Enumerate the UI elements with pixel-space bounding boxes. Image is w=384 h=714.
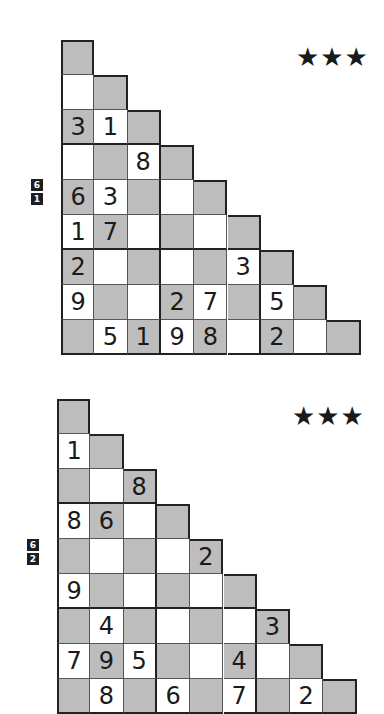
grid-cell[interactable] <box>190 609 223 644</box>
grid-cell[interactable]: 4 <box>224 644 257 679</box>
grid-cell[interactable] <box>157 574 190 609</box>
badge-bottom: 2 <box>27 553 39 565</box>
grid-cell[interactable]: 2 <box>290 679 323 714</box>
grid-cell[interactable]: 2 <box>190 539 223 574</box>
grid-cell[interactable] <box>157 644 190 679</box>
grid-cell[interactable] <box>124 539 157 574</box>
grid-cell[interactable] <box>57 609 90 644</box>
grid-cell[interactable] <box>57 679 90 714</box>
grid-cell[interactable] <box>157 539 190 574</box>
grid-cell[interactable] <box>124 504 157 539</box>
difficulty-stars: ★★★ <box>292 401 365 431</box>
grid-cell[interactable] <box>124 609 157 644</box>
grid-cell[interactable] <box>257 644 290 679</box>
grid-cell[interactable] <box>90 434 123 469</box>
grid-cell[interactable]: 8 <box>57 504 90 539</box>
grid-cell[interactable] <box>224 609 257 644</box>
grid-cell[interactable] <box>224 574 257 609</box>
grid-cell[interactable] <box>124 574 157 609</box>
grid-cell[interactable] <box>57 539 90 574</box>
grid-cell[interactable] <box>90 539 123 574</box>
grid-cell[interactable]: 8 <box>90 679 123 714</box>
grid-cell[interactable]: 7 <box>224 679 257 714</box>
grid-cell[interactable] <box>90 574 123 609</box>
grid-cell[interactable] <box>124 679 157 714</box>
grid-cell[interactable] <box>57 469 90 504</box>
grid-cell[interactable] <box>257 679 290 714</box>
grid-cell[interactable]: 7 <box>57 644 90 679</box>
grid-cell[interactable] <box>190 574 223 609</box>
grid-cell[interactable]: 5 <box>124 644 157 679</box>
grid-cell[interactable]: 9 <box>57 574 90 609</box>
grid-cell[interactable]: 6 <box>157 679 190 714</box>
grid-cell[interactable] <box>290 644 323 679</box>
puzzle-number-badge: 6 2 <box>27 539 39 567</box>
grid-cell[interactable]: 6 <box>90 504 123 539</box>
grid-cell[interactable]: 8 <box>124 469 157 504</box>
grid-cell[interactable]: 1 <box>57 434 90 469</box>
grid-cell[interactable] <box>57 399 90 434</box>
grid-cell[interactable]: 9 <box>90 644 123 679</box>
grid-cell[interactable]: 3 <box>257 609 290 644</box>
grid-cell[interactable]: 4 <box>90 609 123 644</box>
grid-cell[interactable] <box>157 609 190 644</box>
grid-cell[interactable] <box>190 679 223 714</box>
grid-cell[interactable] <box>323 679 356 714</box>
grid-cell[interactable] <box>90 469 123 504</box>
badge-top: 6 <box>27 539 39 551</box>
grid-cell[interactable] <box>157 504 190 539</box>
grid-cell[interactable] <box>190 644 223 679</box>
